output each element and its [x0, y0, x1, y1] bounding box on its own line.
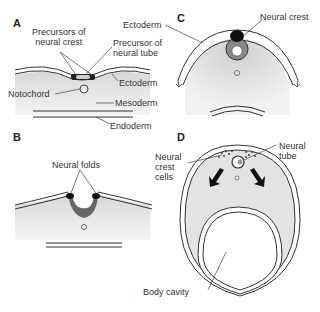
label-neural-crest-cells: Neural crest cells — [155, 152, 182, 182]
label-mesoderm: Mesoderm — [115, 98, 158, 108]
label-line: Precursor of — [113, 38, 162, 48]
label-precursors-neural-crest: Precursors of neural crest — [32, 27, 86, 47]
label-precursor-neural-tube: Precursor of neural tube — [113, 38, 162, 58]
panel-c-illustration — [165, 20, 300, 116]
panel-letter-a: A — [13, 17, 21, 29]
panel-b-illustration — [15, 170, 152, 247]
label-line: neural crest — [32, 37, 86, 47]
label-line: neural tube — [113, 48, 162, 58]
label-ectoderm-a: Ectoderm — [119, 78, 158, 88]
label-line: Precursors of — [32, 27, 86, 37]
label-line: Neural — [279, 141, 306, 151]
panel-letter-c: C — [177, 12, 185, 24]
panel-d-illustration — [180, 145, 300, 296]
label-line: Neural — [155, 152, 182, 162]
label-neural-crest: Neural crest — [260, 12, 309, 22]
label-line: cells — [155, 172, 182, 182]
panel-letter-b: B — [13, 131, 21, 143]
label-notochord: Notochord — [8, 89, 50, 99]
label-line: tube — [279, 151, 306, 161]
label-ectoderm-c: Ectoderm — [123, 20, 162, 30]
label-neural-tube: Neural tube — [279, 141, 306, 161]
label-line: crest — [155, 162, 182, 172]
label-body-cavity: Body cavity — [143, 287, 189, 297]
label-endoderm: Endoderm — [110, 121, 152, 131]
panel-letter-d: D — [177, 131, 185, 143]
label-neural-folds: Neural folds — [52, 160, 100, 170]
